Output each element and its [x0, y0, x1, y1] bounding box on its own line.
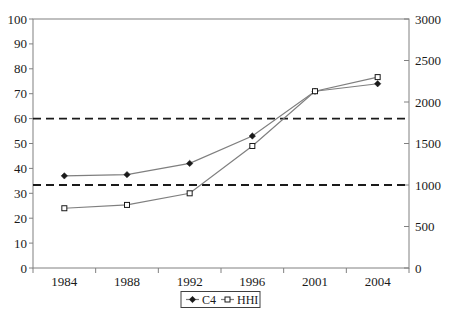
c4-data-point [124, 171, 130, 177]
left-axis-tick-label: 40 [14, 161, 27, 176]
hhi-data-point [125, 202, 130, 207]
series-line-hhi [64, 77, 377, 208]
left-axis-tick-label: 70 [14, 86, 27, 101]
x-axis-tick-label: 1988 [114, 274, 140, 289]
left-axis-tick-label: 20 [14, 211, 27, 226]
left-axis-tick-label: 0 [21, 261, 28, 276]
left-axis-tick-label: 50 [14, 136, 27, 151]
left-axis-tick-label: 30 [14, 186, 27, 201]
x-axis-tick-label: 2004 [365, 274, 392, 289]
legend-label-hhi: HHI [237, 293, 258, 307]
legend-label-c4: C4 [202, 293, 216, 307]
hhi-data-point [250, 143, 255, 148]
hhi-data-point [62, 206, 67, 211]
x-axis-tick-label: 1984 [51, 274, 78, 289]
c4-data-point [186, 160, 192, 166]
left-axis-tick-label: 90 [14, 36, 27, 51]
right-axis-tick-label: 500 [415, 219, 435, 234]
concentration-line-chart: 0102030405060708090100050010001500200025… [0, 0, 450, 320]
left-axis-tick-label: 80 [14, 61, 27, 76]
hhi-data-point [313, 89, 318, 94]
c4-data-point [374, 81, 380, 87]
hhi-data-point [187, 191, 192, 196]
plot-border [33, 19, 409, 268]
right-axis-tick-label: 1000 [415, 178, 441, 193]
right-axis-tick-label: 2500 [415, 53, 441, 68]
x-axis-tick-label: 2001 [302, 274, 328, 289]
left-axis-tick-label: 100 [8, 12, 28, 27]
x-axis-tick-label: 1992 [177, 274, 203, 289]
right-axis-tick-label: 0 [415, 261, 422, 276]
legend-marker-hhi [225, 297, 230, 302]
x-axis-tick-label: 1996 [239, 274, 266, 289]
chart-figure: 0102030405060708090100050010001500200025… [0, 0, 450, 320]
hhi-data-point [375, 75, 380, 80]
c4-data-point [61, 173, 67, 179]
left-axis-tick-label: 10 [14, 236, 27, 251]
right-axis-tick-label: 1500 [415, 136, 441, 151]
right-axis-tick-label: 2000 [415, 95, 441, 110]
series-line-c4 [64, 84, 377, 176]
left-axis-tick-label: 60 [14, 111, 27, 126]
right-axis-tick-label: 3000 [415, 12, 441, 27]
